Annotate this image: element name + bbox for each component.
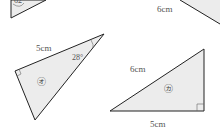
triangle-o: 5cm 28° ㋔ <box>15 34 104 120</box>
geometry-figure: 62° 6cm 5cm 28° ㋔ 6cm ㋕ 5cm <box>0 0 220 132</box>
angle-label-62: 62° <box>14 0 25 5</box>
partial-triangle-top-right: 6cm <box>157 0 220 24</box>
triangle-name-ka: ㋕ <box>164 84 173 94</box>
hypotenuse-label-6cm: 6cm <box>130 64 146 74</box>
base-label-5cm: 5cm <box>150 119 166 129</box>
triangle-name-o: ㋔ <box>37 77 46 87</box>
side-label-5cm: 5cm <box>36 43 52 53</box>
angle-label-28: 28° <box>72 53 83 62</box>
partial-triangle-top-left: 62° <box>11 0 46 18</box>
triangle-ka: 6cm ㋕ 5cm <box>110 49 204 129</box>
side-label-6cm-top: 6cm <box>157 4 173 14</box>
